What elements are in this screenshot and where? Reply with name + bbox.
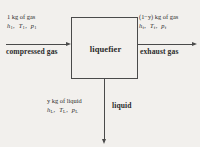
liquid-state-variables: hL, TL, pL [47,105,82,115]
outlet-arrowhead-icon [192,42,197,46]
liquid-pressure-subscript: L [75,109,78,114]
liquefier-box-label: liquefier [72,18,139,80]
outlet-stream-line [138,44,194,45]
outlet-pressure-subscript: f [165,25,167,30]
outlet-enthalpy-subscript: f [143,25,145,30]
liquid-enthalpy-subscript: L [51,109,54,114]
inlet-quantity: 1 kg of gas [7,12,37,21]
outlet-state-variables: hf, Tf, pf [139,21,178,31]
inlet-pressure-subscript: 1 [34,25,37,30]
inlet-temperature-subscript: 1 [23,25,26,30]
inlet-enthalpy-subscript: 1 [11,25,14,30]
inlet-state-label: 1 kg of gas h1, T1, p1 [7,12,37,31]
inlet-state-variables: h1, T1, p1 [7,21,37,31]
outlet-quantity: (1−y) kg of gas [139,12,178,21]
inlet-stream-line [6,44,66,45]
liquid-stream-line [104,79,105,141]
liquid-state-label: y kg of liquid hL, TL, pL [47,96,82,115]
outlet-enthalpy-symbol: h [139,22,143,29]
liquid-arrowhead-icon [102,139,106,144]
inlet-arrowhead-icon [66,42,71,46]
liquid-enthalpy-symbol: h [47,106,51,113]
liquefier-process-box: liquefier [71,17,138,79]
outlet-stream-name: exhaust gas [140,47,178,56]
outlet-state-label: (1−y) kg of gas hf, Tf, pf [139,12,178,31]
liquefier-flow-diagram: liquefier 1 kg of gas h1, T1, p1 compres… [0,0,200,147]
inlet-enthalpy-symbol: h [7,22,11,29]
outlet-temperature-subscript: f [154,25,156,30]
liquid-quantity: y kg of liquid [47,96,82,105]
inlet-stream-name: compressed gas [6,47,58,56]
liquid-stream-name: liquid [112,101,132,110]
liquid-temperature-subscript: L [63,109,66,114]
